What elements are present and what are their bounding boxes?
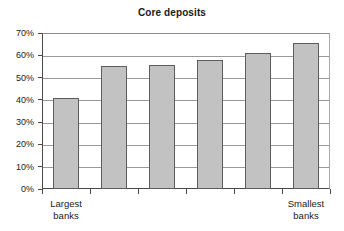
x-category-label: Smallestbanks — [266, 198, 344, 222]
x-tick-mark — [42, 189, 43, 194]
x-category-label-line2: banks — [266, 210, 344, 222]
x-category-label-line1: Smallest — [288, 198, 324, 209]
x-tick-mark — [330, 189, 331, 194]
x-tick-mark — [282, 189, 283, 194]
x-category-label-line2: banks — [26, 210, 106, 222]
x-tick-mark — [234, 189, 235, 194]
x-category-label-line1: Largest — [50, 198, 82, 209]
x-tick-mark — [138, 189, 139, 194]
bar-chart: Core deposits 0%10%20%30%40%50%60%70% La… — [0, 0, 344, 231]
x-tick-mark — [90, 189, 91, 194]
x-tick-mark — [186, 189, 187, 194]
x-axis: LargestbanksSmallestbanks — [0, 0, 344, 231]
x-category-label: Largestbanks — [26, 198, 106, 222]
